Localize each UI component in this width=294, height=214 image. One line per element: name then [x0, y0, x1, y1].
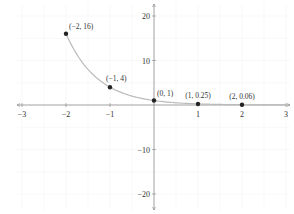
point-marker-icon [240, 103, 244, 107]
point-marker-icon [196, 102, 200, 106]
y-tick-label: 10 [142, 57, 150, 66]
x-tick-label: 2 [240, 110, 244, 119]
point-label: (2, 0.06) [229, 92, 255, 101]
data-point: (−2, 16) [64, 22, 94, 36]
point-label: (−1, 4) [106, 74, 127, 83]
y-tick-label: 20 [142, 12, 150, 21]
x-tick-label: 1 [196, 110, 200, 119]
tick-labels: −3−2−11232010−10−20 [18, 12, 288, 199]
point-marker-icon [152, 98, 156, 102]
point-label: (0, 1) [157, 89, 174, 98]
data-point: (−1, 4) [106, 74, 127, 89]
point-marker-icon [64, 32, 68, 36]
y-tick-label: −10 [137, 146, 150, 155]
point-label: (−2, 16) [69, 22, 94, 31]
data-point: (0, 1) [152, 89, 174, 103]
point-marker-icon [108, 85, 112, 89]
data-points: (−2, 16)(−1, 4)(0, 1)(1, 0.25)(2, 0.06) [64, 22, 256, 107]
function-graph: −3−2−11232010−10−20 (−2, 16)(−1, 4)(0, 1… [0, 0, 294, 214]
x-tick-label: −1 [106, 110, 115, 119]
point-label: (1, 0.25) [185, 91, 211, 100]
grid-lines [17, 4, 290, 210]
x-tick-label: −3 [18, 110, 27, 119]
axes [17, 4, 290, 210]
x-tick-label: 3 [284, 110, 288, 119]
x-tick-label: −2 [62, 110, 71, 119]
y-tick-label: −20 [137, 190, 150, 199]
